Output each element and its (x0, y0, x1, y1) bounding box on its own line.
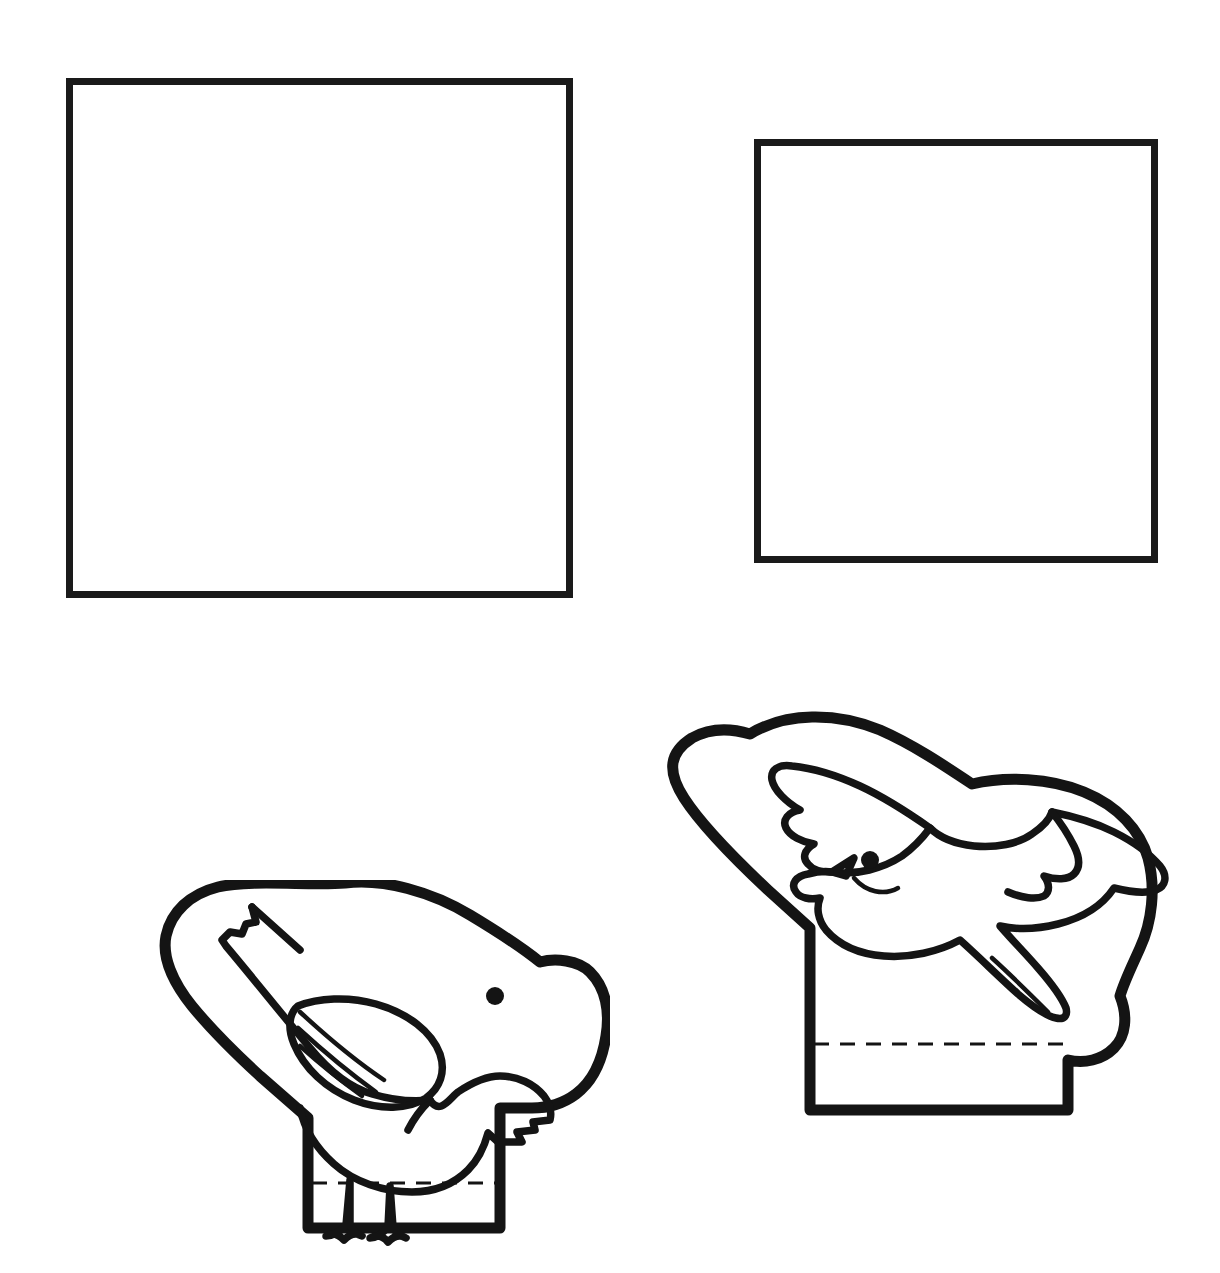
worksheet-page (0, 0, 1220, 1273)
bird-flying-icon[interactable] (640, 700, 1170, 1130)
bird-eye-icon (861, 851, 879, 869)
blank-square-large[interactable] (66, 78, 573, 598)
bird-standing-icon[interactable] (140, 880, 610, 1250)
bird-eye-icon (486, 987, 504, 1005)
blank-square-small[interactable] (754, 139, 1158, 563)
